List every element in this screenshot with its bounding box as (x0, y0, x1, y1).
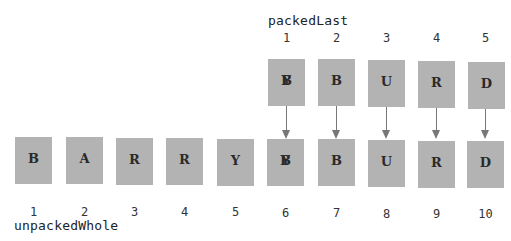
arrow-down-icon (332, 130, 340, 139)
unpacked-index: 9 (418, 207, 455, 221)
unpacked-index: 5 (217, 205, 254, 219)
packed-cell: Y B (268, 59, 305, 106)
cell-char: U (368, 74, 405, 89)
unpacked-index: 3 (116, 205, 153, 219)
unpacked-cell: Y B (267, 139, 304, 186)
unpacked-cell: B (318, 139, 355, 186)
cell-char: B (268, 73, 305, 88)
packed-cell: D (468, 62, 505, 109)
packed-index: 5 (467, 31, 504, 45)
unpacked-index: 4 (166, 205, 203, 219)
unpacked-cell: A (66, 137, 103, 184)
cell-char: R (116, 152, 153, 167)
packed-index: 2 (318, 31, 355, 45)
arrow-line (436, 108, 437, 132)
packed-array-label: packedLast (268, 13, 348, 28)
cell-char: Y (217, 153, 254, 168)
packed-index: 3 (368, 31, 405, 45)
unpacked-index: 6 (267, 206, 304, 220)
arrow-down-icon (481, 130, 489, 139)
arrow-line (286, 106, 287, 132)
arrow-line (336, 106, 337, 132)
arrow-line (386, 107, 387, 132)
packed-cell: U (368, 60, 405, 107)
cell-char: R (418, 75, 455, 90)
packed-cell: B (318, 59, 355, 106)
unpacked-cell: R (116, 138, 153, 185)
cell-char: A (66, 151, 103, 166)
cell-char: D (467, 155, 504, 170)
unpacked-index: 8 (368, 207, 405, 221)
packed-index: 4 (418, 31, 455, 45)
cell-char: B (15, 151, 52, 166)
cell-char: R (166, 152, 203, 167)
unpacked-cell: R (418, 141, 455, 188)
unpacked-index: 1 (15, 205, 52, 219)
arrow-down-icon (382, 130, 390, 139)
packed-cell: R (418, 61, 455, 108)
cell-char: B (318, 153, 355, 168)
unpacked-cell: B (15, 137, 52, 184)
packed-index: 1 (268, 31, 305, 45)
cell-char: U (368, 154, 405, 169)
cell-char: R (418, 155, 455, 170)
arrow-down-icon (432, 130, 440, 139)
unpacked-cell: D (467, 141, 504, 188)
unpacked-cell: U (368, 140, 405, 187)
cell-char: D (468, 76, 505, 91)
unpacked-index: 10 (467, 207, 504, 221)
unpacked-cell: R (166, 138, 203, 185)
unpacked-array-label: unpackedWhole (14, 218, 118, 233)
arrow-down-icon (282, 130, 290, 139)
unpacked-index: 2 (66, 205, 103, 219)
arrow-line (485, 109, 486, 132)
unpacked-cell: Y (217, 139, 254, 186)
cell-char: B (267, 153, 304, 168)
cell-char: B (318, 73, 355, 88)
unpacked-index: 7 (318, 206, 355, 220)
